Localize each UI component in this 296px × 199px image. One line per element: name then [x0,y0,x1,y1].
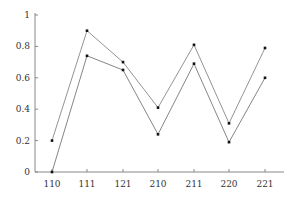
x-tick-label: 121 [114,179,131,189]
y-tick-label: 0.6 [16,73,31,83]
x-tick-label: 110 [43,179,60,189]
series-line [52,56,265,172]
data-point-marker [264,77,267,80]
y-tick-label: 0.4 [16,104,31,114]
data-point-marker [193,62,196,65]
data-point-marker [193,44,196,47]
data-point-marker [228,141,231,144]
y-tick-label: 0.8 [16,41,31,51]
x-tick-label: 221 [256,179,273,189]
series-2 [51,55,267,174]
series-line [52,31,265,141]
data-point-marker [86,29,89,32]
data-point-marker [122,61,125,64]
y-tick-label: 0 [24,167,30,177]
data-point-marker [51,139,54,142]
data-point-marker [122,69,125,72]
axes [35,13,284,172]
y-tick-label: 1 [24,10,30,20]
data-point-marker [86,55,89,58]
data-point-marker [264,47,267,50]
series-group [51,29,267,173]
x-tick-label: 210 [149,179,166,189]
x-tick-label: 220 [220,179,237,189]
series-1 [51,29,267,142]
x-tick-label: 211 [185,179,202,189]
y-tick-label: 0.2 [16,136,30,146]
data-point-marker [157,106,160,109]
data-point-marker [228,122,231,125]
line-chart: 00.20.40.60.81 110111121210211220221 [0,0,296,199]
data-point-marker [51,171,54,174]
x-tick-label: 111 [78,179,95,189]
data-point-marker [157,133,160,136]
